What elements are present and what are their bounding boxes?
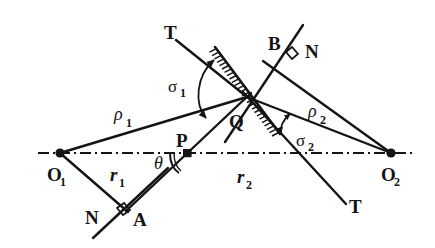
label-r1-text: r bbox=[110, 164, 118, 185]
tangent-ray-T-upper bbox=[176, 40, 247, 97]
label-rho1: ρ 1 bbox=[113, 104, 132, 130]
label-sigma2-sub: 2 bbox=[308, 140, 314, 154]
label-A: A bbox=[133, 209, 147, 230]
rho1-segment bbox=[60, 97, 247, 153]
label-B: B bbox=[268, 33, 281, 54]
normal-line-N-A bbox=[93, 168, 168, 238]
point-O2 bbox=[386, 148, 395, 157]
label-rho1-text: ρ bbox=[113, 104, 123, 124]
label-N-lower-left: N bbox=[85, 207, 99, 228]
label-N-upper-right: N bbox=[305, 41, 319, 62]
sigma2-angle-arc bbox=[281, 114, 290, 133]
label-T-upper-left: T bbox=[164, 22, 177, 43]
label-T-lower-right: T bbox=[349, 196, 362, 217]
point-O1 bbox=[55, 148, 64, 157]
label-r1-sub: 1 bbox=[119, 176, 125, 190]
label-P: P bbox=[176, 130, 188, 151]
diagram-canvas: O 1 O 2 P Q A B N N T T ρ 1 ρ bbox=[0, 0, 435, 248]
label-rho2-sub: 2 bbox=[320, 113, 326, 127]
label-r2-sub: 2 bbox=[246, 178, 252, 192]
label-O2-sub: 2 bbox=[394, 175, 400, 189]
segment-B-to-O2 bbox=[263, 61, 391, 153]
label-sigma1-text: σ bbox=[168, 77, 177, 96]
label-rho1-sub: 1 bbox=[126, 116, 132, 130]
label-O2: O 2 bbox=[381, 164, 400, 189]
label-sigma1: σ 1 bbox=[168, 77, 186, 100]
r1-segment-O1-A bbox=[60, 153, 128, 212]
label-sigma2: σ 2 bbox=[296, 131, 314, 154]
hatched-tangent-baseline bbox=[215, 47, 280, 134]
label-sigma2-text: σ bbox=[296, 131, 305, 150]
label-rho2-text: ρ bbox=[307, 101, 317, 121]
label-theta: θ bbox=[154, 153, 163, 173]
label-O1-sub: 1 bbox=[60, 175, 66, 189]
label-r2-text: r bbox=[237, 166, 245, 187]
rho2-segment bbox=[247, 97, 391, 153]
label-sigma1-sub: 1 bbox=[180, 86, 186, 100]
geometry-figure: O 1 O 2 P Q A B N N T T ρ 1 ρ bbox=[0, 0, 435, 248]
label-O1: O 1 bbox=[47, 164, 66, 189]
label-Q: Q bbox=[229, 111, 244, 132]
label-r1: r 1 bbox=[110, 164, 125, 190]
label-r2: r 2 bbox=[237, 166, 252, 192]
